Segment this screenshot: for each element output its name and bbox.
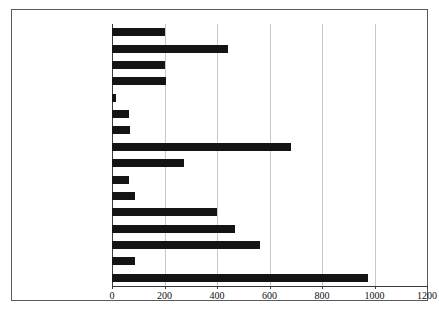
bar [112,274,368,282]
bar [112,225,235,233]
bar-rows: VenezuelaUruguayDominican RepublicPeruPa… [112,24,427,286]
bar [112,176,129,184]
x-tick [217,286,218,289]
bar-row: Guatemala [112,171,427,187]
bar-row: El Salvador [112,188,427,204]
bar-row: Brazil [112,237,427,253]
bar [112,159,184,167]
x-tick-label: 400 [210,290,225,301]
bar-row: Venezuela [112,24,427,40]
bar [112,45,228,53]
x-tick-label: 800 [315,290,330,301]
bar [112,77,166,85]
figure-caption [14,313,424,322]
bar-row: Uruguay [112,40,427,56]
bar [112,192,135,200]
bar-row: Dominican Republic [112,57,427,73]
bar-row: Panama [112,106,427,122]
x-tick [270,286,271,289]
chart-figure: VenezuelaUruguayDominican RepublicPeruPa… [11,9,428,301]
x-tick [427,286,428,289]
x-tick [165,286,166,289]
bar-row: Costa Rica [112,204,427,220]
x-tick [375,286,376,289]
bar-row: Mexico [112,139,427,155]
plot-region: VenezuelaUruguayDominican RepublicPeruPa… [112,24,427,286]
x-tick-label: 200 [157,290,172,301]
x-tick-label: 0 [110,290,115,301]
bar [112,126,130,134]
bar [112,94,116,102]
bar-row: Argentina [112,270,427,286]
x-tick [112,286,113,289]
bar-row: Paraguay [112,90,427,106]
bar [112,241,260,249]
x-axis: 020040060080010001200 [112,286,428,306]
bar [112,110,129,118]
x-tick-label: 1000 [365,290,385,301]
bar-row: Nicaragua [112,122,427,138]
bar-row: Chile [112,221,427,237]
bar [112,257,135,265]
bar [112,28,165,36]
bar-row: Bolivia [112,253,427,269]
plot-area: VenezuelaUruguayDominican RepublicPeruPa… [112,24,427,286]
x-tick-label: 600 [262,290,277,301]
x-tick [322,286,323,289]
bar [112,143,291,151]
x-tick-label: 1200 [417,290,437,301]
bar [112,208,217,216]
bar [112,61,165,69]
bar-row: Peru [112,73,427,89]
bar-row: Honduras [112,155,427,171]
